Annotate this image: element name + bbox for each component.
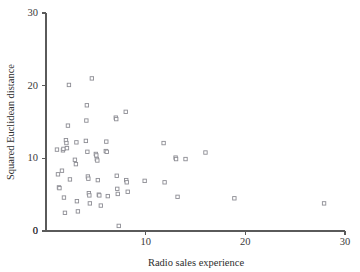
plot-canvas: 0102030 0102030 Radio sales experience S… <box>0 0 360 272</box>
data-point-marker <box>85 119 88 122</box>
data-point-marker <box>184 157 187 160</box>
data-point-marker <box>65 141 68 144</box>
data-point-marker <box>96 178 99 181</box>
data-point-marker <box>125 181 128 184</box>
data-point-marker <box>126 190 129 193</box>
data-point-marker <box>63 211 66 214</box>
y-tick-label: 30 <box>28 7 39 18</box>
data-point-marker <box>105 140 108 143</box>
data-point-marker <box>65 146 68 149</box>
x-tick-label: 0 <box>33 225 38 236</box>
y-tick-label: 20 <box>28 80 39 91</box>
y-axis-label: Squared Euclidean distance <box>5 64 16 180</box>
data-point-marker <box>88 202 91 205</box>
data-point-marker <box>88 194 91 197</box>
data-point-marker <box>162 141 165 144</box>
axes <box>46 13 345 231</box>
data-point-marker <box>115 117 118 120</box>
data-point-marker <box>116 187 119 190</box>
data-point-marker <box>176 195 179 198</box>
data-point-marker <box>163 181 166 184</box>
y-axis-ticks: 0102030 <box>28 7 47 236</box>
data-point-marker <box>124 110 127 113</box>
data-point-marker <box>74 162 77 165</box>
y-tick-label: 10 <box>28 152 39 163</box>
x-axis-ticks: 0102030 <box>33 225 351 247</box>
x-tick-label: 20 <box>240 236 251 247</box>
data-point-marker <box>233 197 236 200</box>
data-points <box>55 77 326 228</box>
data-point-marker <box>106 194 109 197</box>
data-point-marker <box>96 159 99 162</box>
data-point-marker <box>84 139 87 142</box>
data-point-marker <box>322 202 325 205</box>
data-point-marker <box>75 141 78 144</box>
data-point-marker <box>174 157 177 160</box>
data-point-marker <box>62 147 65 150</box>
data-point-marker <box>66 124 69 127</box>
data-point-marker <box>116 192 119 195</box>
data-point-marker <box>95 154 98 157</box>
data-point-marker <box>55 148 58 151</box>
data-point-marker <box>68 178 71 181</box>
data-point-marker <box>204 151 207 154</box>
data-point-marker <box>58 186 61 189</box>
x-tick-label: 10 <box>140 236 151 247</box>
data-point-marker <box>117 224 120 227</box>
x-tick-label: 30 <box>340 236 351 247</box>
data-point-marker <box>105 150 108 153</box>
scatter-plot-figure: 0102030 0102030 Radio sales experience S… <box>0 0 360 272</box>
data-point-marker <box>67 83 70 86</box>
data-point-marker <box>115 174 118 177</box>
data-point-marker <box>76 210 79 213</box>
data-point-marker <box>62 196 65 199</box>
data-point-marker <box>73 158 76 161</box>
x-axis-label: Radio sales experience <box>148 257 245 268</box>
data-point-marker <box>60 169 63 172</box>
data-point-marker <box>143 179 146 182</box>
data-point-marker <box>56 173 59 176</box>
data-point-marker <box>98 194 101 197</box>
data-point-marker <box>75 200 78 203</box>
data-point-marker <box>86 150 89 153</box>
data-point-marker <box>85 104 88 107</box>
data-point-marker <box>99 204 102 207</box>
data-point-marker <box>90 77 93 80</box>
data-point-marker <box>87 177 90 180</box>
